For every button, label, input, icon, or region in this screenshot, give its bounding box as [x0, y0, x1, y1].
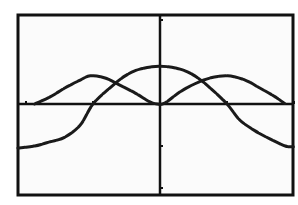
calculator-graph: [0, 0, 298, 205]
